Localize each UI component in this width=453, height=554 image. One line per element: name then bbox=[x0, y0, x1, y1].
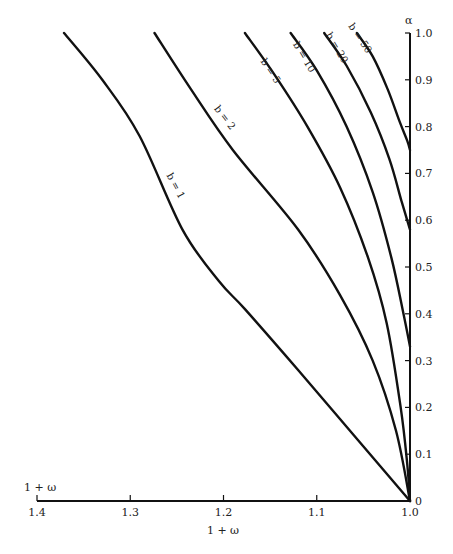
curve-label: b = 5 bbox=[259, 56, 283, 85]
y-tick-label: 1.0 bbox=[415, 27, 433, 40]
curve-label: b = 50 bbox=[346, 21, 374, 55]
x-tick-label: 1.3 bbox=[122, 506, 140, 519]
curve-label: b = 10 bbox=[291, 40, 318, 75]
y-tick-label: 0.5 bbox=[415, 261, 433, 274]
y-tick-label: 0.8 bbox=[415, 121, 433, 134]
x-tick-label: 1.1 bbox=[308, 506, 326, 519]
x-tick-label: 1.4 bbox=[28, 506, 46, 519]
curve-b20 bbox=[324, 33, 410, 230]
curve-b5 bbox=[245, 33, 410, 501]
y-tick-label: 0.3 bbox=[415, 355, 433, 368]
curve-b1 bbox=[64, 33, 410, 501]
x-tick-label: 1.2 bbox=[215, 506, 233, 519]
x-ticks: 1.41.31.21.11.0 bbox=[28, 495, 419, 519]
y-tick-label: 0 bbox=[415, 495, 422, 508]
chart: 1.41.31.21.11.0 00.10.20.30.40.50.60.70.… bbox=[0, 0, 453, 554]
y-tick-label: 0.9 bbox=[415, 74, 433, 87]
curves bbox=[64, 33, 410, 501]
curve-label: b = 20 bbox=[324, 30, 351, 65]
curve-b10 bbox=[291, 33, 410, 347]
x-axis-corner-title: 1 + ω bbox=[24, 481, 56, 494]
x-axis-title: 1 + ω bbox=[207, 524, 239, 537]
y-tick-label: 0.4 bbox=[415, 308, 433, 321]
y-tick-label: 0.1 bbox=[415, 448, 433, 461]
y-tick-label: 0.6 bbox=[415, 214, 433, 227]
curve-labels: b = 1b = 2b = 5b = 10b = 20b = 50 bbox=[164, 21, 374, 201]
y-axis-title: α bbox=[405, 14, 413, 27]
y-tick-label: 0.7 bbox=[415, 167, 433, 180]
axes bbox=[37, 33, 410, 501]
y-tick-label: 0.2 bbox=[415, 401, 433, 414]
